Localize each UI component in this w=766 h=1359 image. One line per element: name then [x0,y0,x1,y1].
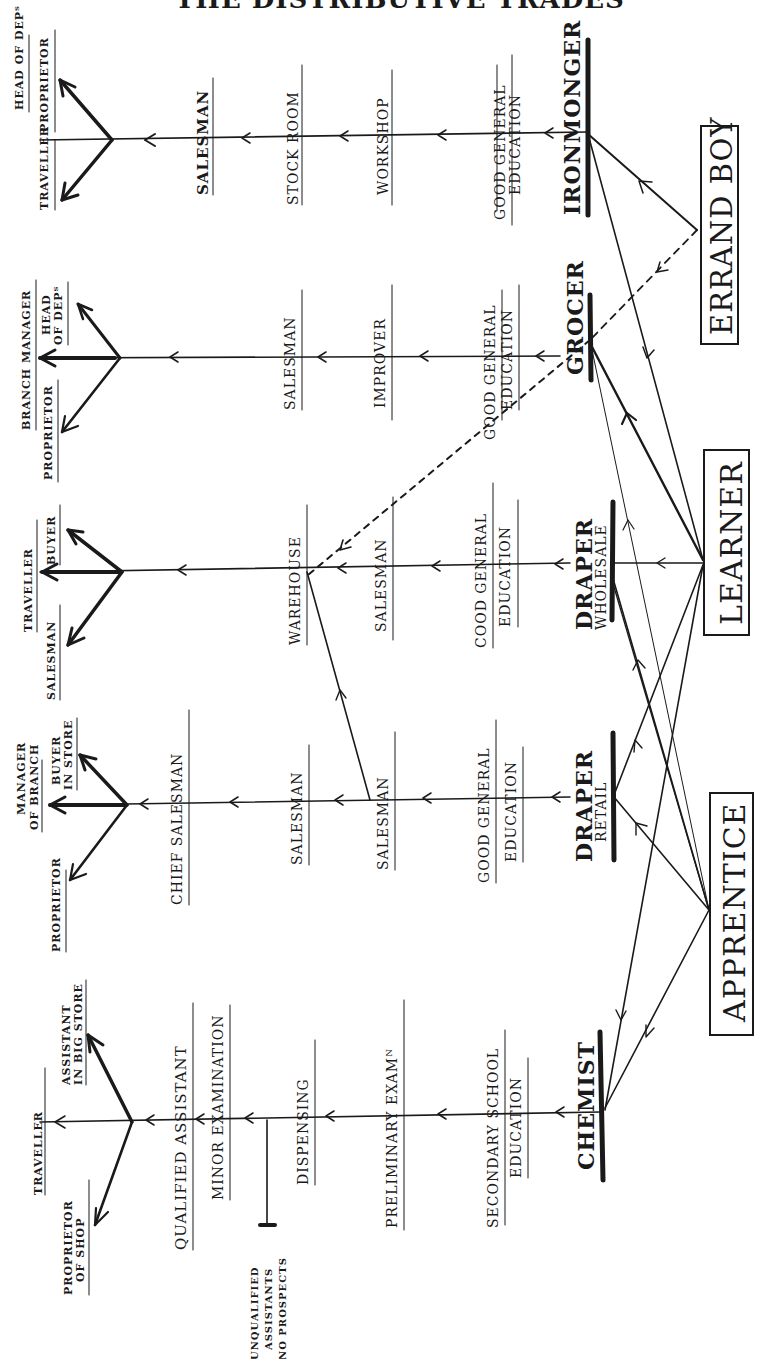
svg-text:OF SHOP: OF SHOP [74,1218,87,1282]
svg-text:DISPENSING: DISPENSING [295,1078,311,1185]
svg-text:LEARNER: LEARNER [714,461,749,625]
career-paths-diagram: THE DISTRIBUTIVE TRADES ERRAND BOY LEARN… [0,0,766,1359]
svg-text:UNQUALIFIED: UNQUALIFIED [249,1266,260,1359]
svg-text:OF BRANCH: OF BRANCH [28,744,41,830]
svg-text:SALESMAN: SALESMAN [375,776,391,870]
svg-text:PRELIMINARY EXAMᴺ: PRELIMINARY EXAMᴺ [384,1048,400,1228]
svg-text:SALESMAN: SALESMAN [373,538,389,632]
svg-text:ERRAND BOY: ERRAND BOY [705,117,739,335]
trade-name: IRONMONGER [559,20,585,215]
svg-text:EDUCATION: EDUCATION [497,526,513,627]
svg-text:SALESMAN: SALESMAN [45,621,58,700]
svg-text:MINOR EXAMINATION: MINOR EXAMINATION [210,1015,226,1200]
svg-text:CHIEF SALESMAN: CHIEF SALESMAN [169,753,185,905]
svg-text:STOCK ROOM: STOCK ROOM [285,91,301,205]
svg-text:PROPRIETOR: PROPRIETOR [42,385,55,480]
svg-text:IMPROVER: IMPROVER [372,318,388,408]
svg-text:APPRENTICE: APPRENTICE [717,803,752,1024]
svg-text:SALESMAN: SALESMAN [282,316,298,410]
svg-text:WHOLESALE: WHOLESALE [593,524,609,630]
svg-text:QUALIFIED ASSISTANT: QUALIFIED ASSISTANT [172,1045,190,1250]
svg-text:EDUCATION: EDUCATION [499,309,515,410]
svg-text:HEAD OF DEPᵀ: HEAD OF DEPᵀ [13,5,26,110]
svg-text:SECONDARY SCHOOL: SECONDARY SCHOOL [485,1048,501,1228]
svg-text:RETAIL: RETAIL [593,782,609,842]
page-header: THE DISTRIBUTIVE TRADES [175,0,625,14]
trade-draper-retail: DRAPER RETAIL GOOD GENERAL EDUCATION SAL… [15,710,614,952]
entry-box-apprentice: APPRENTICE [710,793,753,1035]
svg-text:PROPRIETOR: PROPRIETOR [38,37,51,132]
svg-text:TRAVELLER: TRAVELLER [32,1111,45,1195]
entry-box-learner: LEARNER [704,450,749,635]
svg-text:WAREHOUSE: WAREHOUSE [287,536,303,645]
svg-text:EDUCATION: EDUCATION [508,1077,524,1178]
svg-text:GOOD GENERAL: GOOD GENERAL [492,84,508,220]
svg-text:IN BIG STORE: IN BIG STORE [72,983,85,1085]
svg-text:BUYER: BUYER [45,516,58,565]
svg-text:GROCER: GROCER [562,260,588,375]
svg-text:IN STORE: IN STORE [62,720,75,790]
svg-text:WORKSHOP: WORKSHOP [375,97,391,195]
svg-text:MANAGER: MANAGER [15,742,28,815]
trade-grocer: GROCER GOOD GENERAL EDUCATION IMPROVER S… [20,260,591,482]
svg-text:GOOD GENERAL: GOOD GENERAL [482,304,498,440]
svg-text:TRAVELLER: TRAVELLER [22,548,35,632]
svg-text:OF DEPᵀ: OF DEPᵀ [52,286,65,345]
svg-text:NO PROSPECTS: NO PROSPECTS [277,1257,288,1359]
svg-text:SALESMAN: SALESMAN [289,771,305,865]
svg-text:GOOD GENERAL: GOOD GENERAL [476,747,492,883]
svg-text:COOD GENERAL: COOD GENERAL [473,513,489,648]
svg-text:EDUCATION: EDUCATION [507,94,523,195]
svg-text:BRANCH MANAGER: BRANCH MANAGER [20,290,33,430]
entry-box-errand-boy: ERRAND BOY [701,117,739,344]
trade-ironmonger: IRONMONGER GOOD GENERAL EDUCATION WORKSH… [13,5,588,225]
svg-text:SALESMAN: SALESMAN [194,90,212,195]
trade-chemist: CHEMIST SECONDARY SCHOOL EDUCATION PRELI… [32,980,603,1359]
svg-text:TRAVELLER: TRAVELLER [38,126,51,210]
svg-text:CHEMIST: CHEMIST [573,1041,599,1170]
trade-draper-wholesale: DRAPER WHOLESALE COOD GENERAL EDUCATION … [22,483,613,800]
svg-text:ASSISTANTS: ASSISTANTS [263,1268,274,1351]
svg-text:PROPRIETOR: PROPRIETOR [50,857,63,952]
svg-text:EDUCATION: EDUCATION [503,761,519,862]
